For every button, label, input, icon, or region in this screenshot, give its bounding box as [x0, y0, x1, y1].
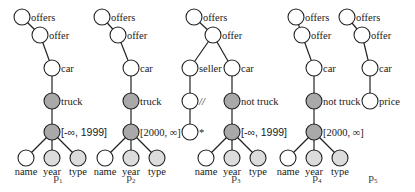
- node-circle: [332, 150, 348, 166]
- tree-node-type: type: [69, 150, 87, 177]
- tree-node-not-truck: not truck: [224, 93, 279, 109]
- node-label: [2000, ∞]: [323, 127, 364, 138]
- node-circle: [339, 9, 355, 25]
- node-label: car: [241, 63, 254, 74]
- tree-node-truck: truck: [123, 93, 162, 109]
- node-label: //: [198, 96, 206, 107]
- node-circle: [182, 93, 198, 109]
- node-circle: [44, 150, 60, 166]
- node-circle: [32, 27, 48, 43]
- tree-node-2000: [2000, ∞]: [306, 124, 364, 140]
- tree-node-type: type: [249, 150, 267, 177]
- node-circle: [97, 150, 113, 166]
- node-circle: [224, 150, 240, 166]
- node-label: [-∞, 1999]: [61, 126, 107, 138]
- node-label: name: [195, 166, 218, 177]
- node-circle: [250, 150, 266, 166]
- node-label: offers: [356, 12, 380, 23]
- node-circle: [14, 9, 30, 25]
- node-circle: [362, 60, 378, 76]
- tree-pattern-p4: offersoffercarnot truck[2000, ∞]nameyear…: [277, 9, 364, 185]
- tree-node-price: price: [362, 93, 400, 109]
- node-circle: [44, 93, 60, 109]
- node-label: type: [69, 166, 87, 177]
- tree-node-offer: offer: [354, 27, 392, 43]
- node-label: car: [140, 63, 153, 74]
- tree-node-car: car: [123, 60, 153, 76]
- node-circle: [149, 150, 165, 166]
- node-circle: [354, 27, 370, 43]
- tree-node-not-truck: not truck: [306, 93, 361, 109]
- tree-node-offer: offer: [110, 27, 148, 43]
- node-label: offer: [371, 30, 392, 41]
- node-circle: [294, 27, 310, 43]
- node-circle: [306, 124, 322, 140]
- node-label: truck: [61, 96, 83, 107]
- node-circle: [224, 124, 240, 140]
- node-label: price: [379, 96, 400, 107]
- node-circle: [280, 150, 296, 166]
- node-label: offers: [203, 12, 227, 23]
- node-circle: [224, 93, 240, 109]
- tree-node-name: name: [195, 150, 218, 177]
- node-circle: [182, 124, 198, 140]
- node-circle: [44, 60, 60, 76]
- tree-node-car: car: [44, 60, 74, 76]
- tree-node-seller: seller: [182, 60, 222, 76]
- tree-node-offer: offer: [32, 27, 70, 43]
- tree-pattern-p3: offersoffersellercar//not truck*[-∞, 199…: [182, 9, 287, 185]
- node-label: car: [323, 63, 336, 74]
- node-label: offer: [127, 30, 148, 41]
- tree-node-car: car: [306, 60, 336, 76]
- node-label: offers: [31, 12, 55, 23]
- node-circle: [306, 93, 322, 109]
- node-circle: [123, 93, 139, 109]
- tree-node-offers: offers: [288, 9, 329, 25]
- tree-patterns-diagram: offersoffercartruck[-∞, 1999]nameyeartyp…: [0, 0, 415, 192]
- node-circle: [362, 93, 378, 109]
- node-circle: [123, 124, 139, 140]
- tree-node-offer: offer: [294, 27, 332, 43]
- tree-node-offers: offers: [339, 9, 380, 25]
- tree-node-name: name: [15, 150, 38, 177]
- node-label: truck: [140, 96, 162, 107]
- node-label: type: [249, 166, 267, 177]
- node-label: [-∞, 1999]: [241, 126, 287, 138]
- node-label: name: [277, 166, 300, 177]
- node-label: car: [61, 63, 74, 74]
- tree-node-type: type: [148, 150, 166, 177]
- node-circle: [70, 150, 86, 166]
- node-label: *: [199, 127, 204, 138]
- node-circle: [94, 9, 110, 25]
- node-circle: [186, 9, 202, 25]
- pattern-caption-p5: p5: [369, 171, 379, 185]
- tree-node-car: car: [362, 60, 392, 76]
- tree-node-1999: [-∞, 1999]: [224, 124, 287, 140]
- node-label: offers: [111, 12, 135, 23]
- tree-node-2000: [2000, ∞]: [123, 124, 181, 140]
- node-label: not truck: [241, 96, 279, 107]
- tree-node-1999: [-∞, 1999]: [44, 124, 107, 140]
- tree-node-offer: offer: [205, 27, 243, 43]
- tree-node-name: name: [94, 150, 117, 177]
- node-circle: [205, 27, 221, 43]
- node-circle: [306, 150, 322, 166]
- tree-node-: *: [182, 124, 204, 140]
- tree-node-type: type: [331, 150, 349, 177]
- node-circle: [198, 150, 214, 166]
- node-label: offers: [305, 12, 329, 23]
- node-circle: [110, 27, 126, 43]
- node-circle: [44, 124, 60, 140]
- tree-pattern-p1: offersoffercartruck[-∞, 1999]nameyeartyp…: [14, 9, 107, 185]
- node-circle: [306, 60, 322, 76]
- node-label: name: [15, 166, 38, 177]
- pattern-caption-p1: p1: [54, 171, 64, 185]
- tree-node-truck: truck: [44, 93, 83, 109]
- node-label: car: [379, 63, 392, 74]
- node-circle: [123, 150, 139, 166]
- node-circle: [18, 150, 34, 166]
- tree-node-: //: [182, 93, 206, 109]
- tree-pattern-p2: offersoffercartruck[2000, ∞]nameyeartype…: [94, 9, 181, 185]
- node-circle: [123, 60, 139, 76]
- tree-node-car: car: [224, 60, 254, 76]
